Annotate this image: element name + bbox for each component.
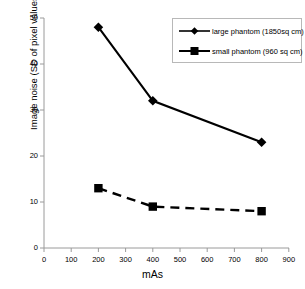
legend: large phantom (1850sq cm) small phantom … (172, 18, 302, 63)
x-tick-label-300: 300 (119, 256, 132, 264)
legend-swatch-square-dashed-line (178, 44, 211, 58)
x-tick-label-700: 700 (228, 256, 241, 264)
x-axis-ticks (44, 248, 289, 252)
y-tick-label-10: 10 (16, 198, 38, 206)
legend-entry-small-phantom: small phantom (960 sq cm) (173, 40, 303, 62)
y-tick-label-20: 20 (16, 152, 38, 160)
x-tick-label-200: 200 (92, 256, 105, 264)
x-tick-label-900: 900 (283, 256, 296, 264)
data-point-marker (149, 202, 157, 210)
chart-container: 0 10 20 30 40 50 0 100 200 300 400 500 6… (0, 0, 305, 289)
series-small-phantom (94, 184, 266, 215)
x-tick-label-500: 500 (174, 256, 187, 264)
y-axis-ticks (40, 18, 44, 248)
x-tick-label-400: 400 (147, 256, 160, 264)
x-tick-label-100: 100 (65, 256, 78, 264)
x-tick-label-600: 600 (201, 256, 214, 264)
data-point-marker (94, 184, 102, 192)
x-axis-title: mAs (0, 268, 305, 280)
x-tick-label-800: 800 (255, 256, 268, 264)
data-point-marker (257, 137, 267, 147)
data-point-marker (257, 207, 265, 215)
legend-label-large-phantom: large phantom (1850sq cm) (212, 27, 304, 36)
legend-entry-large-phantom: large phantom (1850sq cm) (173, 20, 303, 42)
legend-swatch-diamond-line (178, 24, 211, 38)
y-axis-title: Image noise (SD of pixel values) (28, 0, 39, 152)
y-tick-label-0: 0 (16, 244, 38, 252)
legend-label-small-phantom: small phantom (960 sq cm) (212, 47, 302, 56)
x-tick-label-0: 0 (42, 256, 46, 264)
